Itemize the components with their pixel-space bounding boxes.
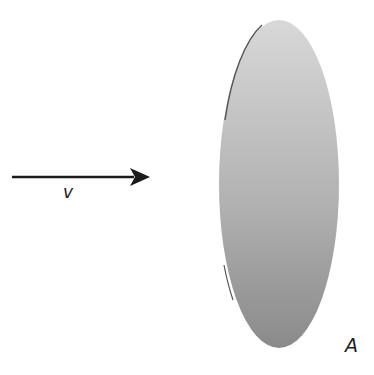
velocity-label: v <box>63 182 74 202</box>
surface-area <box>219 20 339 348</box>
velocity-arrow <box>12 168 150 186</box>
diagram-canvas: v A <box>0 0 374 375</box>
area-label: A <box>343 334 358 356</box>
